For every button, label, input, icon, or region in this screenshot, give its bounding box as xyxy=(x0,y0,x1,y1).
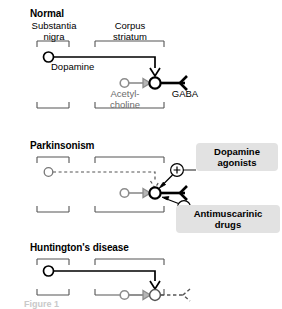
panel-title-huntingtons: Huntington's disease xyxy=(30,242,129,253)
dopamine-agonists-arrow-head xyxy=(159,182,165,188)
region-label-line2: striatum xyxy=(113,31,147,42)
gaba-soma-degenerated xyxy=(150,290,161,301)
drug-box-line2: agonists xyxy=(217,157,256,168)
dopamine-terminal-chevron xyxy=(150,68,160,76)
dopamine-soma xyxy=(44,266,54,276)
nt-label-acetylcholine: Acetyl- choline xyxy=(95,89,155,110)
drug-box-line1: Dopamine xyxy=(214,146,260,157)
nt-label-gaba: GABA xyxy=(161,89,209,100)
region-label-line1: Substantia xyxy=(32,20,77,31)
figure-caption: Figure 1 xyxy=(24,299,59,309)
panel-title-parkinsonism: Parkinsonism xyxy=(30,140,94,151)
parkinsonism-panel-graphics xyxy=(37,157,200,214)
region-label-corpus-striatum: Corpus striatum xyxy=(92,21,168,42)
bracket-corpus-striatum-top xyxy=(95,157,164,163)
huntingtons-panel-graphics xyxy=(37,259,190,301)
nt-label-dopamine: Dopamine xyxy=(51,62,121,73)
acetylcholine-soma xyxy=(120,189,129,198)
region-label-line1: Corpus xyxy=(115,20,146,31)
region-label-line2: nigra xyxy=(43,31,64,42)
drug-box-dopamine-agonists[interactable]: Dopamine agonists xyxy=(196,143,278,171)
drug-box-antimuscarinic-drugs[interactable]: Antimuscarinic drugs xyxy=(176,205,280,233)
bracket-substantia-nigra-bottom xyxy=(37,289,69,295)
bracket-substantia-nigra-top xyxy=(37,157,69,163)
acetylcholine-soma xyxy=(120,291,129,300)
dopamine-terminal-chevron xyxy=(150,281,160,289)
bracket-corpus-striatum-top xyxy=(95,259,164,265)
dopamine-axon xyxy=(53,271,155,281)
acetylcholine-soma xyxy=(120,79,129,88)
nt-label-line2: choline xyxy=(110,99,140,110)
antimuscarinic-arrow-head xyxy=(162,197,169,200)
dopamine-soma-degenerated xyxy=(44,168,53,177)
bracket-substantia-nigra-bottom xyxy=(37,206,69,212)
nt-label-line1: Acetyl- xyxy=(110,88,139,99)
gaba-soma xyxy=(149,77,160,88)
gaba-terminal-chevron-degenerated xyxy=(183,289,190,301)
gaba-soma xyxy=(149,187,160,198)
drug-box-line2: drugs xyxy=(215,219,241,230)
bracket-substantia-nigra-top xyxy=(37,259,69,265)
bracket-substantia-nigra-bottom xyxy=(37,102,69,108)
dopamine-axon-degenerated xyxy=(53,172,155,181)
panel-title-normal: Normal xyxy=(30,8,64,19)
region-label-substantia-nigra: Substantia nigra xyxy=(16,21,92,42)
drug-box-line1: Antimuscarinic xyxy=(194,208,263,219)
bracket-corpus-striatum-bottom xyxy=(95,206,164,212)
